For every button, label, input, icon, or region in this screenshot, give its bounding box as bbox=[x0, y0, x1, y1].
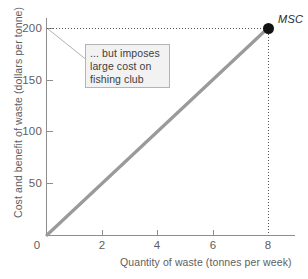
callout-line-1: ... but imposes bbox=[90, 47, 170, 60]
callout-leader-line bbox=[48, 29, 88, 61]
chart-figure: 200 150 100 50 0 2 4 6 8 Quantity of was… bbox=[0, 0, 308, 279]
msc-curve-label: MSC bbox=[278, 13, 303, 25]
msc-point-marker bbox=[263, 23, 274, 34]
callout-line-3: fishing club bbox=[90, 73, 170, 86]
callout-line-2: large cost on bbox=[90, 60, 170, 73]
chart-plot-area bbox=[0, 0, 308, 279]
callout-text: ... but imposes large cost on fishing cl… bbox=[90, 47, 170, 86]
